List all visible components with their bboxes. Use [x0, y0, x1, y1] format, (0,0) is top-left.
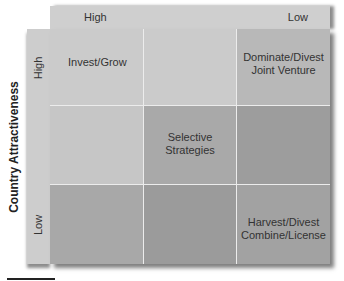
left-axis-title: Country Attractiveness [0, 29, 27, 264]
cell-label: Invest/Grow [68, 56, 127, 69]
footnote-divider [7, 278, 55, 280]
left-axis-high-label: High [33, 56, 45, 79]
left-axis-title-text: Country Attractiveness [7, 81, 21, 213]
cell-r3-c1 [50, 185, 144, 264]
cell-label: Dominate/Divest Joint Venture [243, 51, 324, 77]
cell-dominate-divest: Dominate/Divest Joint Venture [237, 29, 330, 106]
left-axis-header: High Low [27, 29, 50, 264]
cell-selective-strategies: Selective Strategies [144, 106, 237, 185]
top-axis-header: High Low [50, 6, 330, 29]
strategy-matrix: Invest/Grow Dominate/Divest Joint Ventur… [50, 29, 330, 264]
cell-r2-c3 [237, 106, 330, 185]
cell-r2-c1 [50, 106, 144, 185]
cell-r3-c2 [144, 185, 237, 264]
cell-harvest-divest: Harvest/Divest Combine/License [237, 185, 330, 264]
left-axis-low: Low [27, 185, 50, 264]
top-axis-high-label: High [84, 11, 107, 23]
cell-invest-grow: Invest/Grow [50, 29, 144, 106]
cell-label: Harvest/Divest Combine/License [241, 216, 326, 242]
cell-r1-c2 [144, 29, 237, 106]
left-axis-low-label: Low [33, 214, 45, 234]
left-axis-high: High [27, 29, 50, 106]
top-axis-low-label: Low [288, 11, 308, 23]
cell-label: Selective Strategies [165, 131, 215, 157]
